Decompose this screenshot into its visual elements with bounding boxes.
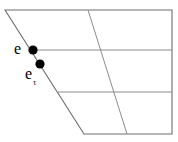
label-point-e-tau: e xyxy=(25,66,32,82)
label-point-e: e xyxy=(14,41,21,57)
point-e-tau-marker xyxy=(35,59,44,68)
label-point-e-tau-subscript: τ xyxy=(33,79,36,87)
point-e-marker xyxy=(28,45,37,54)
figure-container: e e τ xyxy=(0,0,178,142)
